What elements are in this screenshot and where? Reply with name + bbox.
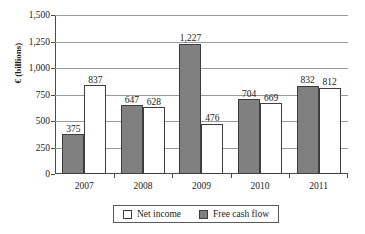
x-axis-tick-mark	[172, 174, 173, 178]
y-tick-label: 1,250	[29, 37, 50, 47]
bar-group: 704669	[231, 15, 290, 174]
bar-chart: € (billions) 02505007501,0001,2501,500 3…	[0, 0, 365, 234]
y-tick-label: 1,500	[29, 10, 50, 20]
y-tick-label: 500	[36, 116, 50, 126]
bar-value-label: 375	[66, 125, 80, 135]
x-tick-label: 2007	[55, 181, 114, 191]
bar-group-bars: 647628	[114, 15, 173, 174]
bar-net-income[interactable]: 837	[84, 85, 106, 174]
bar-value-label: 647	[125, 96, 139, 106]
y-tick-label: 1,000	[29, 63, 50, 73]
plot-area: 02505007501,0001,2501,500 3758376476281,…	[55, 15, 348, 174]
bar-value-label: 832	[301, 76, 315, 86]
y-axis-title: € (billions)	[13, 8, 23, 118]
x-axis-tick-mark	[347, 174, 348, 178]
bar-net-income[interactable]: 628	[143, 107, 165, 174]
legend-label-net-income: Net income	[137, 209, 181, 219]
bar-value-label: 837	[88, 76, 102, 86]
y-tick-label: 250	[36, 143, 50, 153]
bar-free-cash-flow[interactable]: 704	[238, 99, 260, 174]
bar-value-label: 476	[205, 114, 219, 124]
bar-net-income[interactable]: 812	[319, 88, 341, 174]
bar-group: 1,227476	[172, 15, 231, 174]
x-axis-tick-mark	[231, 174, 232, 178]
bar-net-income[interactable]: 669	[260, 103, 282, 174]
legend-item-net-income[interactable]: Net income	[123, 209, 181, 219]
bar-value-label: 669	[264, 94, 278, 104]
chart-legend: Net income Free cash flow	[113, 205, 279, 223]
bar-group: 375837	[55, 15, 114, 174]
gray-square-swatch-icon	[199, 210, 208, 219]
bar-free-cash-flow[interactable]: 832	[297, 86, 319, 174]
bar-free-cash-flow[interactable]: 647	[121, 105, 143, 174]
y-tick-mark	[51, 174, 55, 175]
bar-group-bars: 375837	[55, 15, 114, 174]
bar-free-cash-flow[interactable]: 1,227	[179, 44, 201, 174]
legend-item-free-cash-flow[interactable]: Free cash flow	[199, 209, 269, 219]
bar-group-bars: 1,227476	[172, 15, 231, 174]
bar-free-cash-flow[interactable]: 375	[62, 134, 84, 174]
x-tick-label: 2010	[231, 181, 290, 191]
bar-value-label: 628	[147, 98, 161, 108]
bar-net-income[interactable]: 476	[201, 124, 223, 174]
legend-label-free-cash-flow: Free cash flow	[213, 209, 269, 219]
x-axis-tick-labels: 20072008200920102011	[55, 181, 348, 191]
bar-value-label: 704	[242, 90, 256, 100]
x-tick-label: 2009	[172, 181, 231, 191]
bar-groups: 3758376476281,227476704669832812	[55, 15, 348, 174]
y-tick-label: 750	[36, 90, 50, 100]
x-axis-tick-mark	[289, 174, 290, 178]
bar-group: 832812	[289, 15, 348, 174]
bar-group-bars: 704669	[231, 15, 290, 174]
bar-group: 647628	[114, 15, 173, 174]
x-axis-tick-mark	[114, 174, 115, 178]
white-square-swatch-icon	[123, 210, 132, 219]
x-tick-label: 2008	[114, 181, 173, 191]
y-tick-label: 0	[45, 169, 50, 179]
bar-value-label: 1,227	[180, 34, 201, 44]
x-tick-label: 2011	[289, 181, 348, 191]
bar-group-bars: 832812	[289, 15, 348, 174]
bar-value-label: 812	[323, 78, 337, 88]
